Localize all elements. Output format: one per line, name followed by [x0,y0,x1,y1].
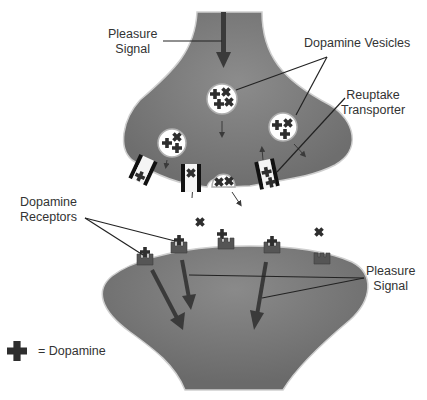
receptor-5 [314,253,330,264]
vesicle-top [207,84,237,114]
free-dopamine-3 [312,225,326,239]
label-dopamine-vesicles: Dopamine Vesicles [304,36,410,51]
label-pleasure-signal-top: Pleasure Signal [108,27,157,57]
free-dopamine-1 [193,215,207,229]
free-dopamine-2 [217,229,227,239]
vesicle-left [158,129,186,157]
legend-dopamine-icon [7,341,27,361]
label-dopamine-receptors: Dopamine Receptors [20,195,77,225]
legend-text: = Dopamine [38,344,106,359]
transporter-middle [181,164,201,192]
receptor-2 [171,235,187,253]
postsynaptic-neuron [102,246,368,390]
vesicle-right [269,113,297,141]
receptor-1 [137,247,153,265]
label-reuptake-transporter: Reuptake Transporter [341,88,405,118]
receptor-4 [264,236,280,253]
receptor-3 [218,238,234,249]
label-pleasure-signal-bottom: Pleasure Signal [366,264,415,294]
